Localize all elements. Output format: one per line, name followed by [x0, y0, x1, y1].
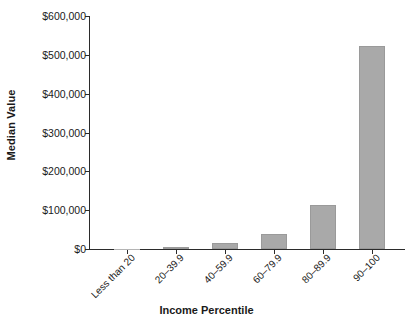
bars-layer [89, 16, 405, 249]
x-axis-line [89, 249, 405, 250]
bar [163, 247, 188, 249]
x-tick-label: 40–59.9 [202, 252, 235, 285]
x-axis-title: Income Percentile [0, 304, 413, 316]
x-tick-label: 80–89.9 [300, 252, 333, 285]
x-tick-label: 90–100 [351, 252, 382, 283]
y-tick-mark [85, 55, 89, 56]
x-tick-label: Less than 20 [89, 252, 137, 300]
x-tick-label: 20–39.9 [153, 252, 186, 285]
y-tick-label: $600,000 [20, 10, 86, 22]
y-tick-mark [85, 133, 89, 134]
y-tick-mark [85, 210, 89, 211]
y-tick-label: $500,000 [20, 49, 86, 61]
y-axis-title-text: Median Value [5, 90, 17, 161]
y-tick-label: $300,000 [20, 127, 86, 139]
y-tick-label: $100,000 [20, 204, 86, 216]
y-tick-mark [85, 94, 89, 95]
y-tick-mark [85, 249, 89, 250]
bar [359, 46, 384, 249]
bar-chart: Median Value $0$100,000$200,000$300,000$… [0, 0, 413, 327]
x-tick-label: 60–79.9 [251, 252, 284, 285]
y-tick-mark [85, 16, 89, 17]
y-tick-label: $0 [20, 243, 86, 255]
y-tick-mark [85, 171, 89, 172]
bar [114, 249, 139, 250]
y-axis-tick-labels: $0$100,000$200,000$300,000$400,000$500,0… [18, 0, 86, 327]
bar [212, 243, 237, 249]
y-tick-label: $200,000 [20, 165, 86, 177]
bar [261, 234, 286, 249]
y-tick-label: $400,000 [20, 88, 86, 100]
bar [310, 205, 335, 249]
plot-area [89, 16, 405, 249]
x-axis-tick-labels: Less than 2020–39.940–59.960–79.980–89.9… [89, 252, 405, 300]
